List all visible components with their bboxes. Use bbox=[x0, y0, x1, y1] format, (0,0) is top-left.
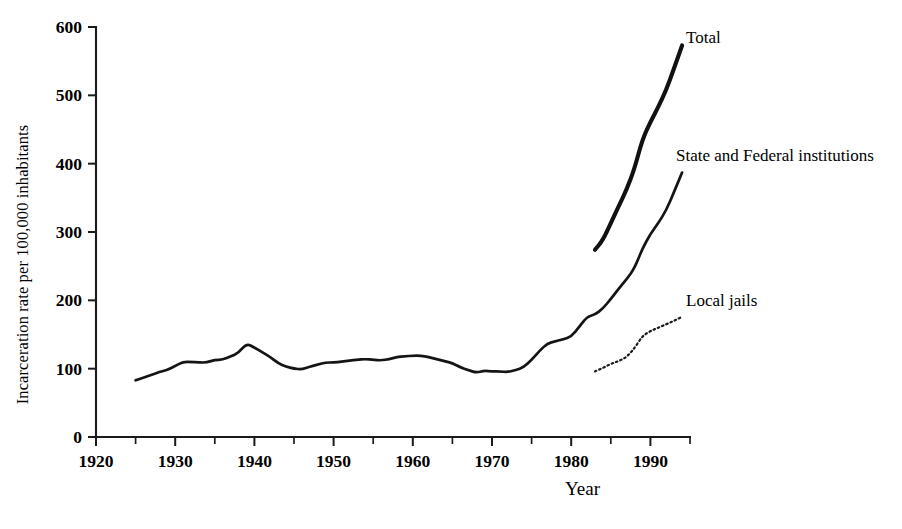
x-axis-ticks bbox=[96, 437, 690, 446]
y-axis-tick-labels: 0100200300400500600 bbox=[56, 17, 83, 447]
series-line-state-federal bbox=[136, 173, 682, 381]
y-axis-ticks bbox=[88, 27, 96, 437]
y-tick-label: 300 bbox=[56, 222, 83, 242]
x-tick-label: 1960 bbox=[395, 451, 430, 471]
x-tick-label: 1980 bbox=[554, 451, 589, 471]
y-tick-label: 400 bbox=[56, 154, 83, 174]
x-axis-title: Year bbox=[565, 478, 600, 500]
y-tick-label: 0 bbox=[73, 427, 82, 447]
y-tick-label: 100 bbox=[56, 359, 83, 379]
x-tick-label: 1970 bbox=[475, 451, 510, 471]
series-label-state-federal: State and Federal institutions bbox=[676, 146, 874, 166]
y-tick-label: 500 bbox=[56, 85, 83, 105]
series-label-total: Total bbox=[686, 28, 721, 48]
x-tick-label: 1990 bbox=[633, 451, 668, 471]
x-axis-tick-labels: 19201930194019501960197019801990 bbox=[79, 451, 669, 471]
incarceration-rate-chart: 0100200300400500600 19201930194019501960… bbox=[0, 0, 902, 529]
chart-plot-area: 0100200300400500600 19201930194019501960… bbox=[0, 0, 902, 529]
series-line-local-jails bbox=[595, 317, 682, 372]
series-line-total bbox=[595, 45, 682, 249]
y-tick-label: 600 bbox=[56, 17, 83, 37]
x-tick-label: 1950 bbox=[316, 451, 351, 471]
series-label-local-jails: Local jails bbox=[686, 291, 757, 311]
x-tick-label: 1930 bbox=[158, 451, 193, 471]
x-tick-label: 1920 bbox=[79, 451, 114, 471]
y-tick-label: 200 bbox=[56, 290, 83, 310]
x-tick-label: 1940 bbox=[237, 451, 272, 471]
